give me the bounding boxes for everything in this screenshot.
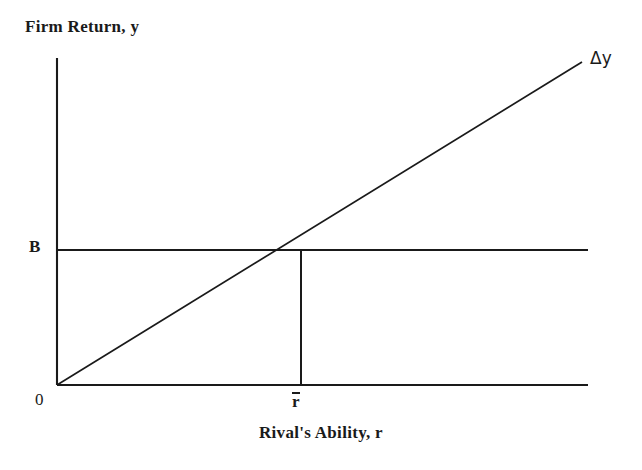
origin-label: 0	[35, 391, 44, 408]
economics-line-figure: Firm Return, y B 0 r Δy Rival's Ability,…	[0, 0, 642, 470]
r-bar-letter: r	[292, 392, 300, 411]
r-bar-tick-label: r	[292, 391, 300, 410]
b-level-label: B	[29, 238, 40, 255]
x-axis-title: Rival's Ability, r	[0, 424, 642, 441]
overbar-decoration	[292, 392, 300, 394]
plot-canvas	[0, 0, 642, 470]
delta-y-curve-label: Δy	[590, 50, 612, 67]
delta-y-line	[57, 62, 582, 385]
y-axis-title: Firm Return, y	[25, 18, 139, 35]
